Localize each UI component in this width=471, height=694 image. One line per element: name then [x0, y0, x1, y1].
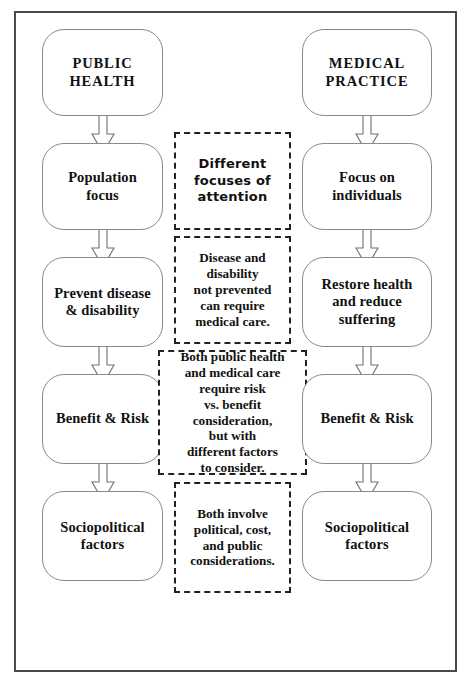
- node-label: Sociopolitical factors: [55, 519, 149, 553]
- node-restore-health[interactable]: Restore health and reduce suffering: [302, 257, 432, 347]
- node-sociopolitical-left[interactable]: Sociopolitical factors: [42, 491, 163, 581]
- node-label: PUBLIC HEALTH: [64, 55, 140, 89]
- figure-frame: PUBLIC HEALTH Population focus Prevent d…: [14, 11, 457, 672]
- node-label: Restore health and reduce suffering: [317, 276, 418, 327]
- node-label: Benefit & Risk: [51, 410, 154, 427]
- note-risk-vs-benefit[interactable]: Both public health and medical care requ…: [158, 350, 307, 475]
- note-disease-disability[interactable]: Disease and disability not prevented can…: [174, 236, 291, 344]
- note-label: Both involve political, cost, and public…: [188, 506, 277, 569]
- note-label: Both public health and medical care requ…: [178, 349, 286, 476]
- node-label: MEDICAL PRACTICE: [321, 55, 414, 89]
- node-label: Focus on individuals: [327, 169, 407, 203]
- node-benefit-risk-right[interactable]: Benefit & Risk: [302, 374, 432, 464]
- node-sociopolitical-right[interactable]: Sociopolitical factors: [302, 491, 432, 581]
- note-label: Disease and disability not prevented can…: [192, 250, 274, 329]
- node-benefit-risk-left[interactable]: Benefit & Risk: [42, 374, 163, 464]
- node-focus-on-individuals[interactable]: Focus on individuals: [302, 143, 432, 230]
- note-label: Different focuses of attention: [192, 156, 273, 207]
- note-both-involve[interactable]: Both involve political, cost, and public…: [174, 482, 291, 593]
- node-prevent-disease[interactable]: Prevent disease & disability: [42, 257, 163, 347]
- node-public-health-heading[interactable]: PUBLIC HEALTH: [42, 29, 163, 116]
- node-medical-practice-heading[interactable]: MEDICAL PRACTICE: [302, 29, 432, 116]
- node-label: Prevent disease & disability: [49, 285, 156, 319]
- node-label: Sociopolitical factors: [320, 519, 414, 553]
- note-different-focuses[interactable]: Different focuses of attention: [174, 132, 291, 230]
- node-label: Population focus: [63, 169, 142, 203]
- node-population-focus[interactable]: Population focus: [42, 143, 163, 230]
- diagram-canvas: PUBLIC HEALTH Population focus Prevent d…: [16, 13, 455, 670]
- node-label: Benefit & Risk: [315, 410, 418, 427]
